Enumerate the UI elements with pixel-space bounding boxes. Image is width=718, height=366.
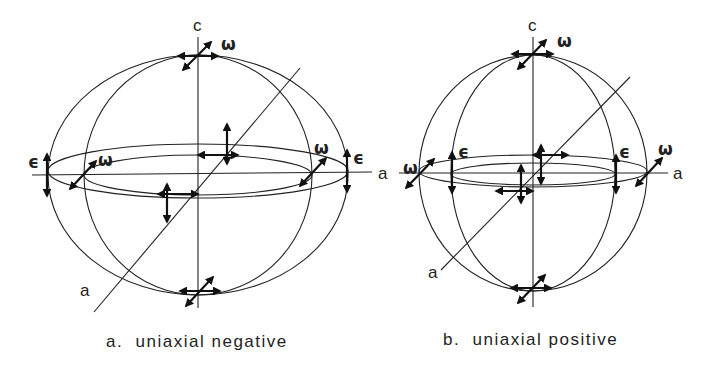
omega-label-left: ω [403,158,418,178]
c-axis-label: c [193,16,202,35]
epsilon-label-right: ϵ [619,142,630,162]
omega-label-top: ω [557,31,572,51]
omega-label-top: ω [221,34,236,54]
omega-label-right: ω [314,138,329,158]
epsilon-label-right: ϵ [353,148,364,168]
caption-a: a. uniaxial negative [106,332,288,351]
epsilon-label-left: ϵ [28,152,39,172]
omega-label-right: ω [658,139,673,159]
epsilon-label-left: ϵ [458,142,469,162]
diagram-uniaxial-negative: c a a ω ω ω ϵ ϵ a. uniaxial negative [28,16,388,351]
omega-label-left: ω [98,150,113,170]
a-axis-diagonal-label: a [80,281,90,300]
a-axis-horizontal-label: a [673,164,683,183]
a-axis-diagonal-label: a [428,263,438,282]
a-axis-horizontal-label: a [378,164,388,183]
vibration-arrows [406,40,662,303]
diagram-uniaxial-positive: c a a ω ω ω ϵ ϵ b. uniaxial positive [399,16,683,349]
caption-b: b. uniaxial positive [443,330,618,349]
indicatrix-figure: c a a ω ω ω ϵ ϵ a. uniaxial negative [0,0,718,366]
c-axis-label: c [528,16,537,35]
